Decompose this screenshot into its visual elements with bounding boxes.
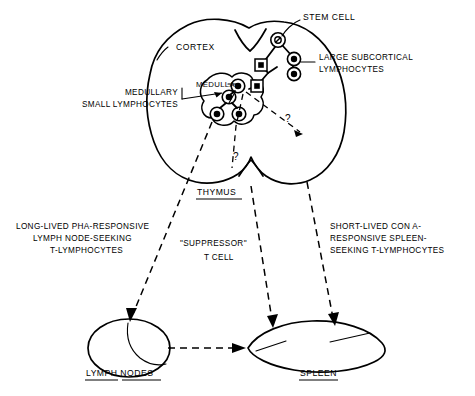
spleen-fissure-left [256,341,286,351]
lymph-nodes-label: LYMPH NODES [86,368,153,378]
suppressor-label-line-2: T CELL [204,253,234,262]
thymus-label: THYMUS [197,187,236,197]
path-question-upper [246,92,300,132]
chain-left-to-square-upper [268,67,277,73]
spleen-path-label-line-2: RESPONSIVE SPLEEN- [330,234,427,243]
leader-cortex-label [157,47,168,60]
medulla-branch-left [220,103,226,108]
large-subcortical-label-line-1: LARGE SUBCORTICAL [319,53,413,62]
spleen-path-label-line-1: SHORT-LIVED CON A- [330,222,421,231]
lymph-node-path-label-line-2: LYMPH NODE-SEEKING [33,234,132,243]
medullary-small-label-line-2: SMALL LYMPHOCYTES [82,100,178,109]
spleen-organ [248,321,385,372]
spleen-fissure-right [330,333,370,342]
text-labels: CORTEX MEDULLA STEM CELL LARGE SUBCORTIC… [16,12,445,380]
intermediate-cell-square-1 [255,59,267,71]
spleen-path-label-line-3: SEEKING T-LYMPHOCYTES [330,246,445,255]
medullary-small-lymphocyte-left [210,107,224,121]
spleen-label: SPLEEN [300,368,337,378]
large-subcortical-label-line-2: LYMPHOCYTES [319,65,384,74]
lymph-node-path-label-line-3: T-LYMPHOCYTES [50,246,123,255]
medulla-branch-right [232,103,237,108]
internal-question-pathways [229,92,303,168]
question-mark-lower: ? [233,151,239,162]
medulla-label: MEDULLA [196,80,235,89]
question-mark-upper: ? [285,113,291,124]
medullary-small-lymphocyte-right [232,107,246,121]
suppressor-label-line-1: "SUPPRESSOR" [180,239,247,248]
path-recirculation-arrowhead [232,343,246,353]
large-subcortical-lymphocyte-1 [287,52,300,65]
thymus-lobe-cleft-top [235,29,266,51]
thymus-lobe-cleft-bottom [239,160,263,176]
cortex-label: CORTEX [176,42,215,52]
stem-cell-label: STEM CELL [303,12,355,22]
path-spleen-arrowhead [328,312,339,326]
thymus-lymphocyte-diagram: CORTEX MEDULLA STEM CELL LARGE SUBCORTIC… [0,0,475,396]
path-thymus-to-lymph-nodes [133,122,212,314]
large-subcortical-lymphocyte-2 [287,67,300,80]
path-suppressor-to-spleen [251,186,272,320]
diagram-canvas: CORTEX MEDULLA STEM CELL LARGE SUBCORTIC… [0,0,475,396]
lymph-node-path-label-line-1: LONG-LIVED PHA-RESPONSIVE [16,222,150,231]
intermediate-cell-square-2 [251,80,263,92]
path-suppressor-arrowhead [267,314,278,328]
medullary-small-label-line-1: MEDULLARY [125,88,178,97]
